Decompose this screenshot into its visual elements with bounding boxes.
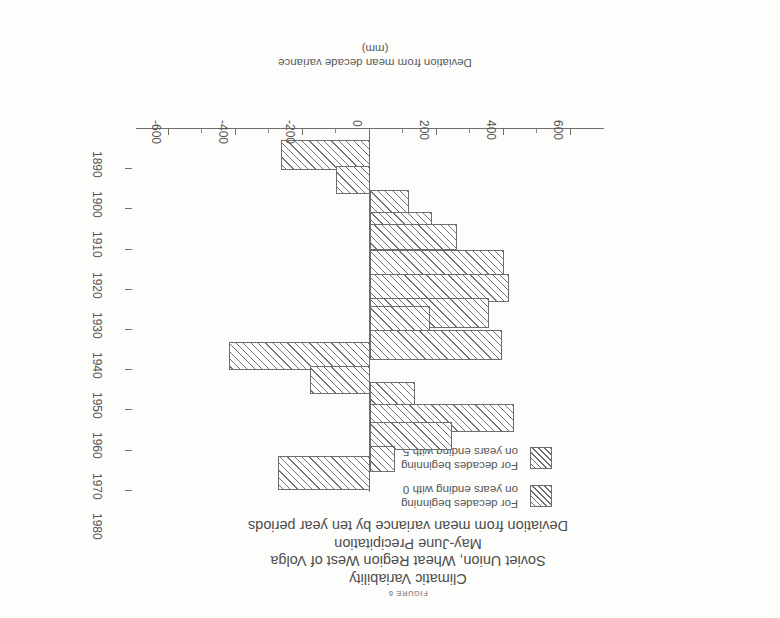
year-label-1910: 1910 xyxy=(90,231,104,258)
value-tick--400 xyxy=(235,129,236,135)
value-minor-tick-300 xyxy=(470,129,471,133)
bar-1890-series-0 xyxy=(281,140,370,170)
title-line-2: Soviet Union, Wheat Region West of Volga xyxy=(128,552,688,570)
bar-1910-series-5 xyxy=(370,212,432,242)
value-minor-tick--100 xyxy=(336,129,337,133)
value-axis-line xyxy=(136,128,604,129)
bar-1960-series-5 xyxy=(370,404,514,432)
year-tick-1950 xyxy=(125,369,132,370)
figure-root: FIGURE 6 Climatic Variability Soviet Uni… xyxy=(0,0,780,618)
year-label-1890: 1890 xyxy=(90,151,104,178)
value-minor-tick-100 xyxy=(403,129,404,133)
value-tick-200 xyxy=(436,129,437,135)
year-label-1930: 1930 xyxy=(90,312,104,339)
legend-label-series-5-line2: on years ending with 5 xyxy=(401,445,518,459)
bar-1920-series-0 xyxy=(370,224,457,250)
figure-caption: FIGURE 6 xyxy=(128,589,688,598)
bar-1930-series-5 xyxy=(370,298,489,328)
title-line-3: May-June Precipitation xyxy=(128,535,688,553)
year-label-1940: 1940 xyxy=(90,352,104,379)
value-tick-label-0: 0 xyxy=(350,120,364,127)
title-line-1: Climatic Variability xyxy=(128,570,688,588)
value-tick-0 xyxy=(369,129,370,135)
year-label-1960: 1960 xyxy=(90,432,104,459)
value-axis-title-line2: (mm) xyxy=(160,42,590,56)
chart-legend: For decades beginning on years ending wi… xyxy=(252,434,552,510)
year-tick-1980 xyxy=(125,490,132,491)
value-tick-label--600: -600 xyxy=(149,120,163,144)
bar-1940-series-0 xyxy=(370,306,430,332)
value-minor-tick--500 xyxy=(202,129,203,133)
legend-label-series-5: For decades beginning on years ending wi… xyxy=(401,445,518,472)
year-label-1950: 1950 xyxy=(90,392,104,419)
bar-1930-series-0 xyxy=(370,274,509,302)
legend-swatch-series-0-icon xyxy=(530,486,552,508)
figure-title-block: FIGURE 6 Climatic Variability Soviet Uni… xyxy=(128,517,688,598)
year-tick-1940 xyxy=(125,329,132,330)
value-tick--600 xyxy=(168,129,169,135)
legend-label-series-0-line1: For decades beginning xyxy=(401,497,518,511)
value-tick-label-200: 200 xyxy=(417,120,431,140)
legend-label-series-0-line2: on years ending with 0 xyxy=(401,483,518,497)
legend-item-series-5: For decades beginning on years ending wi… xyxy=(252,445,552,472)
value-tick-label--400: -400 xyxy=(216,120,230,144)
year-label-1970: 1970 xyxy=(90,473,104,500)
title-line-4: Deviation from mean variance by ten year… xyxy=(128,517,688,535)
legend-label-series-0: For decades beginning on years ending wi… xyxy=(401,483,518,510)
value-minor-tick-500 xyxy=(537,129,538,133)
bar-1950-series-0 xyxy=(229,342,370,370)
value-tick-400 xyxy=(503,129,504,135)
value-tick--200 xyxy=(302,129,303,135)
legend-item-series-0: For decades beginning on years ending wi… xyxy=(252,483,552,510)
year-tick-1960 xyxy=(125,409,132,410)
legend-swatch-series-5-icon xyxy=(530,448,552,470)
value-tick-600 xyxy=(570,129,571,135)
value-tick-label--200: -200 xyxy=(283,120,297,144)
bar-1890-series-5 xyxy=(336,166,370,194)
bar-1950-series-5 xyxy=(310,366,370,394)
year-tick-1920 xyxy=(125,249,132,250)
year-tick-1910 xyxy=(125,208,132,209)
year-tick-1970 xyxy=(125,450,132,451)
value-tick-label-400: 400 xyxy=(484,120,498,140)
bar-1900-series-0 xyxy=(336,166,370,194)
bar-1940-series-5 xyxy=(370,330,502,360)
year-label-1900: 1900 xyxy=(90,191,104,218)
value-axis-title: Deviation from mean decade variance (mm) xyxy=(160,42,590,70)
bar-1960-series-0 xyxy=(370,382,415,408)
bar-1910-series-0 xyxy=(370,190,409,220)
year-label-1980: 1980 xyxy=(90,513,104,540)
legend-label-series-5-line1: For decades beginning xyxy=(401,459,518,473)
value-minor-tick--300 xyxy=(269,129,270,133)
year-tick-1900 xyxy=(125,168,132,169)
year-tick-1930 xyxy=(125,289,132,290)
value-axis-title-line1: Deviation from mean decade variance xyxy=(160,56,590,70)
year-label-1920: 1920 xyxy=(90,272,104,299)
value-tick-label-600: 600 xyxy=(551,120,565,140)
bar-1920-series-5 xyxy=(370,250,504,280)
